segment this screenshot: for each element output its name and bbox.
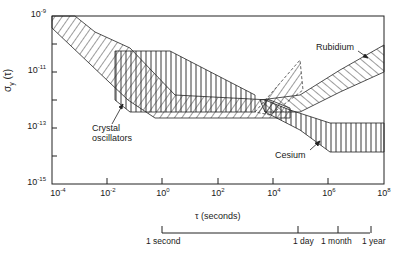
y-tick-label: 10-11	[16, 65, 46, 75]
y-axis-ticks	[52, 44, 57, 156]
x-axis-ticks	[107, 178, 328, 184]
x-tick-label: 106	[322, 188, 335, 198]
time-axis	[162, 226, 371, 233]
x-tick-label: 102	[211, 188, 224, 198]
x-tick-label: 100	[156, 188, 169, 198]
y-tick-label: 10-15	[16, 177, 46, 187]
y-tick-label: 10-9	[16, 9, 46, 19]
y-tick-label: 10-13	[16, 121, 46, 131]
cesium-annotation: Cesium	[275, 150, 306, 160]
time-label-year: 1 year	[362, 236, 386, 246]
x-axis-label: τ (seconds)	[195, 211, 241, 221]
crystal-oscillators-annotation: Crystal oscillators	[92, 123, 132, 143]
time-label-second: 1 second	[146, 236, 181, 246]
rubidium-annotation: Rubidium	[316, 42, 354, 52]
x-tick-label: 10-4	[50, 188, 65, 198]
x-tick-label: 10-2	[100, 188, 115, 198]
x-tick-label: 108	[377, 188, 390, 198]
y-axis-label: σy (τ)	[2, 69, 15, 92]
x-tick-label: 104	[267, 188, 280, 198]
time-label-month: 1 month	[321, 236, 352, 246]
time-label-day: 1 day	[293, 236, 314, 246]
